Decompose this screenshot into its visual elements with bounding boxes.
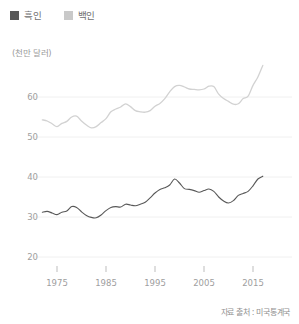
- x-tick-2015: 2015: [236, 278, 270, 288]
- y-tick-20: 20: [16, 252, 38, 262]
- y-tick-30: 30: [16, 212, 38, 222]
- x-tick-2005: 2005: [187, 278, 221, 288]
- x-tick-1975: 1975: [40, 278, 74, 288]
- plot-area: [0, 0, 299, 324]
- x-tick-1985: 1985: [89, 278, 123, 288]
- series-line-흑인: [42, 176, 262, 218]
- chart-svg: [0, 0, 299, 324]
- x-tick-1995: 1995: [138, 278, 172, 288]
- y-tick-50: 50: [16, 132, 38, 142]
- chart-container: 흑인 백인 (천만 달러) 60 50 40 30 20 1975 1985 1…: [0, 0, 299, 324]
- source-note: 자료 출처 : 미국통계국: [221, 306, 290, 317]
- y-tick-40: 40: [16, 172, 38, 182]
- y-tick-60: 60: [16, 92, 38, 102]
